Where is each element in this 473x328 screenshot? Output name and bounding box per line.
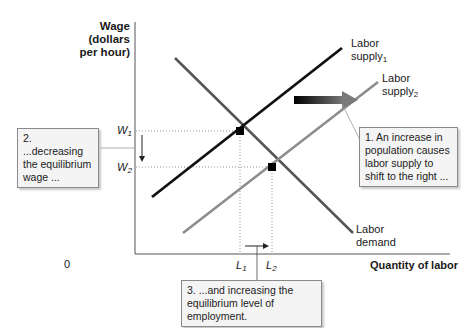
w2-label-sub: 2 <box>127 166 131 175</box>
labor-supply-2-label-line-1: Labor <box>382 72 418 85</box>
callout-supply-shift: 1. An increase in population causes labo… <box>359 127 458 187</box>
x-axis-label: Quantity of labor <box>370 259 458 272</box>
wage-decrease-arrow-icon <box>139 135 145 162</box>
callout-1-line-3: labor supply to <box>365 157 452 170</box>
w2-label: W2 <box>117 161 132 174</box>
labor-demand-label: Labor demand <box>356 223 396 249</box>
labor-supply-1-label: Labor supply1 <box>351 37 387 63</box>
l1-label: L1 <box>236 259 247 272</box>
labor-demand-label-line-1: Labor <box>356 223 396 236</box>
labor-supply-1-label-sub: 1 <box>383 55 387 64</box>
equilibrium-point-1 <box>236 127 244 135</box>
l1-label-sub: 1 <box>242 264 246 273</box>
l2-label-sub: 2 <box>272 264 276 273</box>
labor-supply-2-label-sub: 2 <box>414 90 418 99</box>
callout-1-line-2: population causes <box>365 144 452 157</box>
callout-3-line-2: equilibrium level of employment. <box>187 297 316 323</box>
labor-demand-label-line-2: demand <box>356 236 396 249</box>
l2-label: L2 <box>266 259 277 272</box>
labor-supply-1-curve <box>152 48 342 197</box>
y-axis-label-line-3: per hour) <box>76 46 130 59</box>
w1-label: W1 <box>117 124 132 137</box>
callout-1-line-4: shift to the right ... <box>365 170 452 183</box>
callout-1-line-1: 1. An increase in <box>365 131 452 144</box>
y-axis-label-line-1: Wage <box>76 20 130 33</box>
callout-wage-decrease: 2. ...decreasing the equilibrium wage ..… <box>17 128 99 188</box>
callout-employment-increase: 3. ...and increasing the equilibrium lev… <box>181 280 322 327</box>
labor-supply-1-label-line-1: Labor <box>351 37 387 50</box>
callout-2-line-3: wage ... <box>23 171 93 184</box>
origin-label: 0 <box>64 258 70 271</box>
callout-2-line-1: 2. ...decreasing <box>23 132 93 158</box>
y-axis-label-line-2: (dollars <box>76 33 130 46</box>
labor-supply-2-label-main: supply <box>382 85 414 97</box>
w2-label-main: W <box>117 161 127 173</box>
w1-label-sub: 1 <box>127 129 131 138</box>
callout-3-line-1: 3. ...and increasing the <box>187 284 316 297</box>
labor-supply-1-label-line-2: supply1 <box>351 50 387 63</box>
w1-label-main: W <box>117 124 127 136</box>
labor-supply-2-label-line-2: supply2 <box>382 85 418 98</box>
callout-2-line-2: the equilibrium <box>23 158 93 171</box>
equilibrium-point-2 <box>268 163 276 171</box>
y-axis-label: Wage (dollars per hour) <box>76 20 130 59</box>
labor-supply-1-label-main: supply <box>351 50 383 62</box>
labor-supply-2-label: Labor supply2 <box>382 72 418 98</box>
labor-demand-curve <box>175 58 353 233</box>
